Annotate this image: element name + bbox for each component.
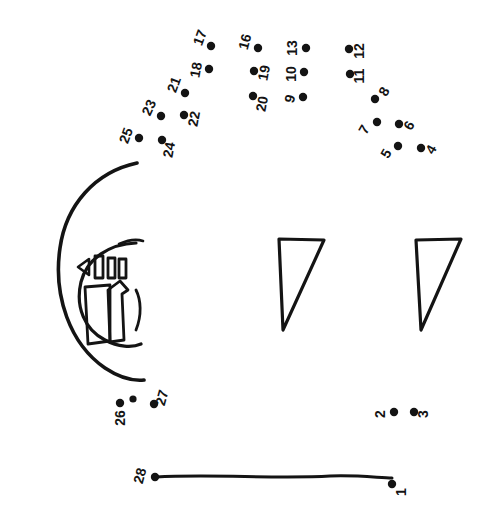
- dot-label-2: 2: [372, 410, 388, 418]
- unlabeled-dot-1[interactable]: [129, 395, 136, 402]
- dot-18[interactable]: [205, 65, 213, 73]
- dot-label-27: 27: [152, 388, 172, 407]
- label-layer: 1234567891011121316171819202122232425262…: [112, 27, 440, 496]
- dot-1[interactable]: [388, 480, 396, 488]
- dot-label-28: 28: [130, 466, 150, 485]
- dot-21[interactable]: [181, 89, 189, 97]
- stroke-layer: [58, 163, 461, 478]
- dot-23[interactable]: [157, 112, 165, 120]
- dot-label-20: 20: [252, 95, 270, 113]
- dot-label-1: 1: [393, 488, 409, 496]
- ground-baseline: [156, 476, 392, 478]
- dot-label-9: 9: [281, 93, 299, 105]
- dot-label-26: 26: [112, 410, 128, 426]
- dot-28[interactable]: [151, 473, 159, 481]
- dot-label-12: 12: [351, 43, 367, 59]
- dot-label-25: 25: [116, 125, 136, 145]
- dot-25[interactable]: [135, 134, 143, 142]
- dot-label-7: 7: [355, 122, 373, 137]
- dot-label-11: 11: [351, 68, 367, 83]
- dot-label-19: 19: [254, 64, 272, 82]
- dot-13[interactable]: [302, 44, 310, 52]
- dot-label-17: 17: [190, 27, 210, 47]
- inner-head-arc-right: [136, 290, 140, 330]
- dot-label-4: 4: [422, 142, 440, 157]
- dot-label-24: 24: [159, 141, 177, 159]
- dot-17[interactable]: [207, 42, 215, 50]
- tooth-bar-2: [108, 258, 115, 278]
- dot-9[interactable]: [299, 93, 307, 101]
- dot-7[interactable]: [373, 118, 381, 126]
- dot-label-13: 13: [284, 40, 300, 56]
- dot-label-3: 3: [415, 410, 431, 418]
- leg-triangle-middle: [279, 239, 324, 330]
- dot-label-21: 21: [164, 74, 184, 94]
- dot-label-5: 5: [377, 146, 395, 161]
- dot-label-22: 22: [184, 110, 202, 128]
- dot-2[interactable]: [390, 408, 398, 416]
- tooth-bar-3: [119, 259, 126, 278]
- dot-10[interactable]: [300, 68, 308, 76]
- dot-layer: [116, 42, 425, 488]
- dot-label-10: 10: [283, 66, 299, 82]
- dot-label-16: 16: [235, 32, 255, 51]
- connect-the-dots-artboard: 1234567891011121316171819202122232425262…: [0, 0, 489, 527]
- dot-26[interactable]: [116, 399, 124, 407]
- dot-label-23: 23: [138, 97, 159, 118]
- leg-triangle-right: [416, 239, 461, 330]
- dot-16[interactable]: [254, 44, 262, 52]
- drawing-canvas: 1234567891011121316171819202122232425262…: [0, 0, 489, 527]
- dot-label-18: 18: [186, 61, 204, 79]
- dot-label-6: 6: [400, 118, 418, 133]
- dot-5[interactable]: [394, 142, 402, 150]
- dot-8[interactable]: [371, 95, 379, 103]
- tooth-bar-1: [95, 256, 103, 278]
